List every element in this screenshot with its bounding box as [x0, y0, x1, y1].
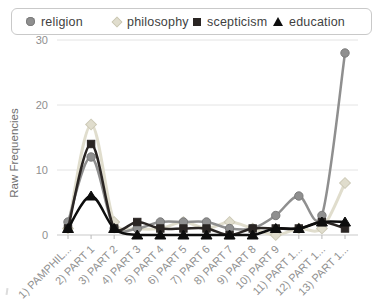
square-marker-icon	[193, 18, 201, 26]
frequency-trends-figure: religion philosophy scepticism education…	[0, 0, 382, 307]
data-point-religion[interactable]	[272, 211, 280, 219]
data-point-religion[interactable]	[341, 49, 349, 57]
circle-marker-icon	[26, 17, 35, 26]
diamond-marker-icon	[111, 16, 122, 27]
line-chart[interactable]: 01020301) PAMPHIL...2) PART 13) PART 24)…	[0, 36, 382, 307]
legend-label: philosophy	[127, 15, 189, 29]
y-tick-label: 30	[36, 36, 48, 46]
y-tick-label: 10	[36, 164, 48, 176]
legend-item-education[interactable]: education	[273, 9, 345, 34]
data-point-scepticism[interactable]	[87, 140, 94, 147]
data-point-religion[interactable]	[295, 192, 303, 200]
data-point-philosophy[interactable]	[340, 178, 351, 189]
legend-label: religion	[41, 15, 83, 29]
chart-legend: religion philosophy scepticism education	[11, 8, 372, 35]
legend-item-scepticism[interactable]: scepticism	[193, 9, 267, 34]
legend-label: education	[289, 15, 345, 29]
y-tick-label: 20	[36, 99, 48, 111]
legend-item-philosophy[interactable]: philosophy	[113, 9, 189, 34]
legend-item-religion[interactable]: religion	[26, 9, 83, 34]
y-tick-label: 0	[42, 229, 48, 241]
data-point-religion[interactable]	[87, 153, 95, 161]
legend-label: scepticism	[207, 15, 267, 29]
data-point-scepticism[interactable]	[134, 218, 141, 225]
data-point-education[interactable]	[86, 191, 97, 200]
triangle-marker-icon	[273, 17, 283, 26]
